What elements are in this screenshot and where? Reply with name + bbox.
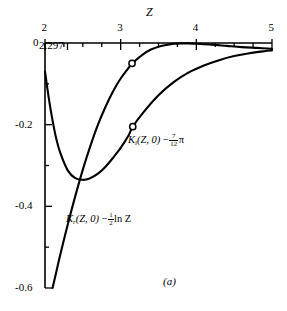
series-label-kr-tail: ln Z <box>114 213 131 224</box>
axes-group <box>45 39 272 288</box>
x-tick-label: 2 <box>42 22 48 33</box>
data-point-marker <box>129 60 135 66</box>
x-axis-title: Z <box>146 6 153 18</box>
data-point-marker <box>130 124 136 130</box>
curve-kr <box>45 50 272 180</box>
x-tick-label: 4 <box>193 22 199 33</box>
y-tick-label: -0.4 <box>15 200 32 211</box>
series-label-ki: Ki(Z, 0) −712π <box>128 133 184 148</box>
series-label-kr-fraction: 12 <box>108 212 113 227</box>
series-label-kr: Kr(Z, 0) −12ln Z <box>66 212 131 227</box>
series-label-kr-fn: K <box>66 213 73 224</box>
y-tick-label: 0 <box>33 37 39 48</box>
figure-caption: (a) <box>163 276 176 287</box>
series-label-ki-args: (Z, 0) <box>137 134 160 145</box>
x-tick-label: 5 <box>269 22 275 33</box>
y-tick-label: -0.2 <box>15 119 32 130</box>
series-label-kr-args: (Z, 0) <box>76 213 99 224</box>
series-label-ki-fn: K <box>128 134 135 145</box>
curve-ki <box>53 43 272 288</box>
y-tick-label: -0.6 <box>15 282 32 293</box>
figure-panel: 2 3 4 5 0 -0.2 -0.4 -0.6 Z 2.297 Ki(Z, 0… <box>0 0 287 311</box>
series-label-ki-tail: π <box>179 134 184 145</box>
series-label-ki-fraction: 712 <box>169 133 178 148</box>
curves-group <box>45 43 272 288</box>
value-annotation-2297: 2.297 <box>39 40 64 51</box>
series-label-ki-minus: − <box>163 134 169 145</box>
x-tick-label: 3 <box>117 22 123 33</box>
series-label-kr-minus: − <box>102 213 108 224</box>
markers-group <box>129 60 136 129</box>
